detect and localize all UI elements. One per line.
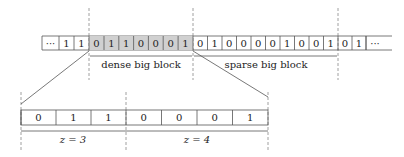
- z3-label: z = 3: [59, 134, 86, 145]
- top-cell-value: 0: [342, 38, 348, 49]
- bottom-cell-value: 1: [105, 112, 111, 123]
- bottom-cell-value: 1: [247, 112, 253, 123]
- bottom-cell-value: 0: [212, 112, 218, 123]
- expand-line-left: [21, 51, 89, 104]
- top-cell-value: 0: [197, 38, 203, 49]
- top-cell-value: 1: [182, 38, 188, 49]
- top-cell-value: 0: [255, 38, 261, 49]
- top-cell-value: 1: [78, 38, 84, 49]
- diagram-root: ···110110001010000100101···dense big blo…: [0, 0, 404, 157]
- bottom-cell-value: 0: [141, 112, 147, 123]
- top-cell-value: 1: [328, 38, 334, 49]
- top-cell-value: 1: [212, 38, 218, 49]
- top-cell-value: 1: [356, 38, 362, 49]
- bottom-cell-value: 1: [70, 112, 76, 123]
- top-cell-value: 0: [241, 38, 247, 49]
- block-diagram: ···110110001010000100101···dense big blo…: [0, 0, 404, 157]
- top-cell-value: 0: [167, 38, 173, 49]
- top-cell-value: 0: [299, 38, 305, 49]
- bottom-cell-value: 0: [35, 112, 41, 123]
- top-cell-value: ···: [46, 38, 56, 49]
- top-cell-value: 1: [284, 38, 290, 49]
- top-cell-value: 0: [313, 38, 319, 49]
- expand-line-right: [193, 51, 268, 97]
- top-cell-value: 0: [138, 38, 144, 49]
- top-cell-value: 0: [270, 38, 276, 49]
- top-cell-value: 1: [108, 38, 114, 49]
- top-cell-value: 0: [93, 38, 99, 49]
- z4-label: z = 4: [183, 134, 210, 145]
- bottom-cell-value: 0: [176, 112, 182, 123]
- top-cell-value: 1: [123, 38, 129, 49]
- top-cell-value: 0: [226, 38, 232, 49]
- sparse-label: sparse big block: [225, 59, 309, 70]
- top-cell-value: 0: [153, 38, 159, 49]
- top-cell-value: 1: [63, 38, 69, 49]
- dense-label: dense big block: [101, 59, 181, 70]
- top-cell-value: ···: [370, 38, 380, 49]
